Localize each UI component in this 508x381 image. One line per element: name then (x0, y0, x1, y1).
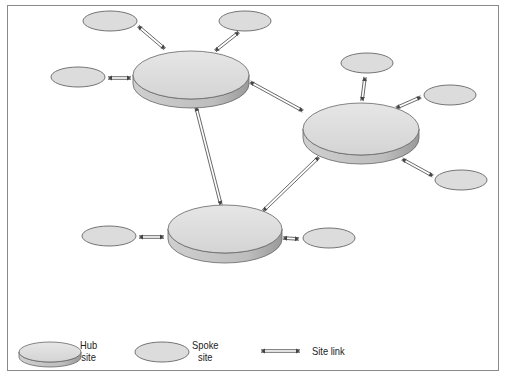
hub-right (303, 103, 419, 164)
link-s7-h3 (139, 235, 164, 240)
spoke-6 (435, 170, 487, 190)
hub-sites (133, 51, 419, 263)
spoke-4 (341, 53, 393, 73)
spoke-5 (424, 85, 476, 105)
link-s6-h2 (401, 158, 433, 177)
spoke-3 (51, 67, 105, 87)
legend-hub-icon (19, 342, 81, 367)
spoke-1 (83, 11, 137, 31)
legend-spoke-label-line2: site (192, 351, 219, 363)
legend-graphics (19, 342, 300, 367)
legend-hub-label-line2: site (80, 351, 97, 363)
hub-top-left (133, 51, 249, 108)
legend-hub-label-line1: Hub (80, 339, 97, 351)
link-h1-h3 (195, 107, 223, 206)
topology-diagram: Hub site Spoke site Site link (0, 0, 508, 381)
link-s3-h1 (108, 76, 131, 81)
hub-bottom (168, 205, 282, 263)
legend-link-icon (261, 349, 300, 354)
link-s4-h2 (360, 77, 367, 101)
legend-hub-label: Hub site (80, 339, 97, 363)
legend-spoke-label: Spoke site (192, 339, 219, 363)
link-s8-h3 (283, 236, 299, 241)
link-s2-h1 (214, 31, 240, 52)
link-h1-h2 (249, 81, 303, 112)
link-s5-h2 (395, 96, 421, 109)
legend-link-label: Site link (312, 345, 345, 357)
link-h2-h3 (262, 156, 320, 212)
spoke-7 (82, 226, 136, 246)
legend-spoke-label-line1: Spoke (192, 339, 219, 351)
spoke-8 (303, 228, 355, 248)
legend-spoke-icon (135, 342, 189, 362)
topology-canvas (0, 0, 508, 381)
spoke-2 (219, 11, 271, 31)
link-s1-h1 (137, 25, 166, 50)
spoke-sites (51, 11, 487, 248)
